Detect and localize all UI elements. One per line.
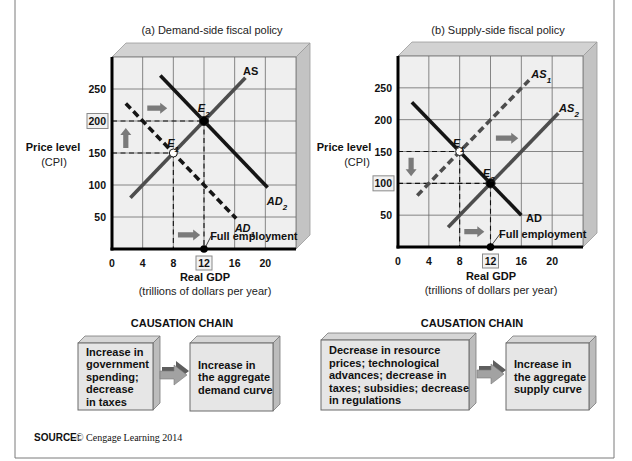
plot-box-side-face xyxy=(296,43,310,249)
xtick-label: 16 xyxy=(515,255,527,267)
cause-box: Increase ingovernmentspending;decreasein… xyxy=(78,336,160,410)
cause-text-line: in taxes xyxy=(86,396,127,408)
ytick-label: 100 xyxy=(374,177,392,189)
ytick-label: 100 xyxy=(88,179,106,191)
effect-text-line: Increase in xyxy=(198,359,256,371)
xtick-label: 0 xyxy=(109,257,115,269)
panel-a-ylabel-sub: (CPI) xyxy=(41,156,67,168)
panel-a-ylabel: Price level xyxy=(26,141,80,153)
plot-box-side-face xyxy=(583,42,597,247)
panel-b-plot: AS1AS2ADE1E2Full employment5010015020025… xyxy=(373,42,597,268)
panel-demand-side: (a) Demand-side fiscal policy Price leve… xyxy=(26,24,310,297)
cause-text-line: advances; decrease in xyxy=(329,369,447,381)
cause-text-line: in regulations xyxy=(329,394,401,406)
xtick-label: 20 xyxy=(259,257,271,269)
cause-text-line: prices; technological xyxy=(329,357,439,369)
xtick-label: 16 xyxy=(229,257,241,269)
panel-a-xlabel: Real GDP xyxy=(180,271,230,283)
panel-supply-side: (b) Supply-side fiscal policy Price leve… xyxy=(317,24,597,296)
xtick-label: 12 xyxy=(198,257,210,269)
ytick-label: 250 xyxy=(374,82,392,94)
panel-b-ylabel: Price level xyxy=(317,141,371,153)
xtick-label: 12 xyxy=(485,255,497,267)
effect-text-line: the aggregate xyxy=(198,371,270,383)
source-text: © Cengage Learning 2014 xyxy=(76,432,182,443)
panel-a-xlabel-sub: (trillions of dollars per year) xyxy=(139,285,272,297)
xtick-label: 0 xyxy=(395,255,401,267)
cause-text-line: government xyxy=(86,358,149,370)
causation-a-heading: CAUSATION CHAIN xyxy=(131,317,234,329)
cause-box: Decrease in resourceprices; technologica… xyxy=(321,333,476,410)
cause-text-line: Increase in xyxy=(86,346,144,358)
effect-box: Increase inthe aggregatesupply curve xyxy=(506,336,596,410)
plot-box-top-face xyxy=(112,43,310,57)
full-employment-point xyxy=(200,245,208,253)
ytick-label: 200 xyxy=(374,114,392,126)
effect-text-line: the aggregate xyxy=(514,371,586,383)
curve-label-as: AS xyxy=(243,65,258,77)
causation-arrow-icon xyxy=(160,361,189,385)
figure: (a) Demand-side fiscal policy Price leve… xyxy=(0,0,632,461)
effect-box: Increase inthe aggregatedemand curve xyxy=(190,336,280,411)
plot-box-top-face xyxy=(398,42,597,56)
causation-chain-b: Decrease in resourceprices; technologica… xyxy=(321,333,596,410)
ytick-label: 200 xyxy=(88,115,106,127)
panel-b-xlabel: Real GDP xyxy=(466,270,516,282)
panel-a-plot: ASAD1AD2E1E2Full employment5010015020025… xyxy=(87,43,310,270)
full-employment-point xyxy=(487,243,495,251)
effect-text-line: demand curve xyxy=(198,384,273,396)
causation-b-heading: CAUSATION CHAIN xyxy=(421,317,524,329)
ytick-label: 50 xyxy=(380,209,392,221)
cause-text-line: decrease xyxy=(86,383,134,395)
xtick-label: 4 xyxy=(426,255,432,267)
xtick-label: 4 xyxy=(140,257,146,269)
panel-a-title: (a) Demand-side fiscal policy xyxy=(141,24,283,36)
cause-text-line: Decrease in resource xyxy=(329,344,440,356)
panel-b-ylabel-sub: (CPI) xyxy=(344,156,370,168)
panel-b-title: (b) Supply-side fiscal policy xyxy=(431,24,565,36)
cause-text-line: spending; xyxy=(86,371,139,383)
xtick-label: 8 xyxy=(170,257,176,269)
source-label: SOURCE: xyxy=(34,432,80,443)
causation-chain-a: Increase ingovernmentspending;decreasein… xyxy=(78,336,280,411)
effect-text-line: Increase in xyxy=(514,358,572,370)
panel-b-xlabel-sub: (trillions of dollars per year) xyxy=(425,284,558,296)
ytick-label: 150 xyxy=(88,147,106,159)
ytick-label: 150 xyxy=(374,146,392,158)
xtick-label: 20 xyxy=(546,255,558,267)
full-employment-label: Full employment xyxy=(499,228,587,240)
cause-text-line: taxes; subsidies; decrease xyxy=(329,382,469,394)
causation-arrow-icon xyxy=(477,360,506,384)
ytick-label: 250 xyxy=(88,83,106,95)
curve-label-ad: AD xyxy=(526,212,542,224)
effect-text-line: supply curve xyxy=(514,383,582,395)
full-employment-label: Full employment xyxy=(210,230,298,242)
ytick-label: 50 xyxy=(94,211,106,223)
xtick-label: 8 xyxy=(457,255,463,267)
